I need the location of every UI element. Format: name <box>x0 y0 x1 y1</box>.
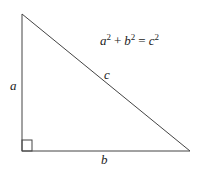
eq-a-exp: 2 <box>107 32 112 42</box>
eq-equals: = <box>138 33 145 48</box>
right-triangle-diagram: a b c a2+b2=c2 <box>0 0 199 173</box>
eq-b-exp: 2 <box>131 32 136 42</box>
right-angle-marker <box>22 140 32 151</box>
eq-c-exp: 2 <box>154 32 159 42</box>
pythagorean-equation: a2+b2=c2 <box>100 32 159 48</box>
eq-plus: + <box>114 33 121 48</box>
label-c: c <box>104 67 110 82</box>
label-b: b <box>101 152 108 167</box>
label-a: a <box>10 78 17 93</box>
